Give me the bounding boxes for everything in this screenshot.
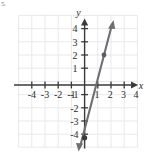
x-tick-label: -2 (54, 89, 62, 100)
y-tick-label: -1 (70, 89, 78, 100)
x-tick-label: 4 (134, 89, 139, 100)
y-axis-arrowhead (81, 18, 88, 25)
line-arrowhead-up (108, 20, 115, 29)
y-tick-label: 4 (73, 23, 78, 34)
plotted-line-series (76, 20, 115, 152)
coordinate-plane-graph: -4 -3 -2 -1 1 2 3 4 4 3 2 1 -1 -2 -3 -4 … (0, 0, 149, 156)
x-axis-label: x (138, 80, 144, 91)
graph-screenshot: 5. (0, 0, 149, 156)
y-tick-label: 3 (73, 37, 78, 48)
x-tick-label: 3 (121, 89, 126, 100)
y-axis-label: y (75, 7, 81, 18)
y-tick-label: -2 (70, 103, 78, 114)
grid-lines (19, 15, 138, 147)
marked-point (82, 135, 87, 140)
y-tick-label: 1 (73, 63, 78, 74)
x-tick-label: -4 (28, 89, 36, 100)
y-tick-label: -4 (70, 129, 78, 140)
y-tick-label: -3 (70, 116, 78, 127)
x-tick-label: -3 (41, 89, 49, 100)
y-tick-label: 2 (73, 50, 78, 61)
x-tick-label: 2 (108, 89, 113, 100)
marked-point (102, 53, 107, 58)
